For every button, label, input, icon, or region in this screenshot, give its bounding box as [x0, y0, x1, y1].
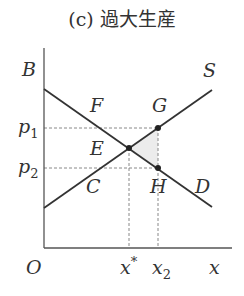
- label-x-axis: x: [209, 256, 220, 278]
- label-p1: p1: [18, 115, 38, 141]
- label-s: S: [203, 59, 216, 81]
- label-e: E: [89, 137, 104, 159]
- label-origin: O: [26, 256, 42, 278]
- label-x2: x2: [152, 256, 171, 282]
- label-d: D: [194, 175, 210, 197]
- point-h: [155, 165, 161, 171]
- point-g: [155, 125, 161, 131]
- label-h: H: [149, 175, 167, 197]
- supply-demand-diagram: B S F G E C H D p1 p2 O x* x2 x: [0, 0, 244, 296]
- label-xstar: x*: [120, 254, 138, 278]
- label-p2: p2: [18, 155, 38, 181]
- point-e: [126, 145, 132, 151]
- label-b: B: [21, 58, 36, 80]
- label-f: F: [89, 94, 104, 116]
- deadweight-loss-triangle: [129, 128, 158, 168]
- label-c: C: [86, 175, 101, 197]
- label-g: G: [152, 94, 167, 116]
